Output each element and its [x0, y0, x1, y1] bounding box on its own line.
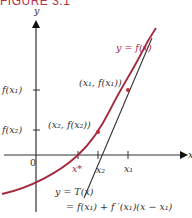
point-label-x1: (x₁, f(x₁)) [79, 77, 122, 88]
x-tick-label-x1: x₁ [124, 163, 133, 174]
origin-label: 0 [30, 157, 36, 168]
tangent-line [84, 38, 152, 198]
y-axis-label: y [33, 5, 40, 16]
point-label-x2: (x₂, f(x₂)) [48, 119, 91, 130]
y-tick-label-fx2: f(x₂) [1, 124, 22, 135]
x-tick-label-x2: x₂ [96, 164, 105, 175]
point-x2 [96, 130, 100, 134]
point-x1 [126, 88, 130, 92]
curve-label: y = f(x) [115, 42, 152, 53]
tangent-label-line1: y = T(x) [54, 186, 94, 197]
tangent-label-line2: = f(x₁) + f ′(x₁)(x − x₁) [66, 201, 173, 212]
x-axis-label: x [188, 149, 192, 160]
x-tick-label-xstar: x* [72, 163, 82, 174]
y-tick-label-fx1: f(x₁) [1, 84, 22, 95]
newton-method-diagram: y x 0 y = f(x) f(x₁) f(x₂) (x₁, f(x₁)) (… [0, 0, 192, 218]
